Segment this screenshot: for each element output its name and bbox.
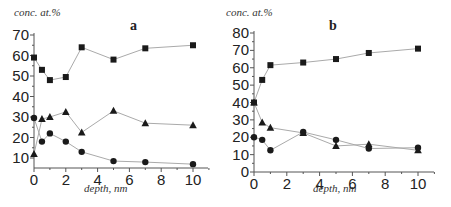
x-tick-label: 2 [283, 175, 291, 192]
square-marker [190, 42, 196, 48]
square-marker [267, 62, 273, 68]
panel-label-a: a [130, 18, 137, 33]
square-marker [111, 57, 117, 63]
x-tick-label: 10 [185, 171, 202, 188]
plot-area-a [30, 42, 197, 167]
circle-marker [63, 138, 69, 144]
circle-marker [110, 158, 116, 164]
y-tick-label: 80 [232, 24, 249, 41]
square-marker [142, 45, 148, 51]
circle-marker [142, 159, 148, 165]
y-tick-label: 10 [232, 146, 249, 163]
y-axis-title-b: conc. at.% [226, 6, 273, 18]
y-tick-label: 70 [12, 26, 29, 43]
y-tick-label: 50 [12, 67, 29, 84]
square-marker [31, 55, 37, 61]
circle-marker [366, 145, 372, 151]
triangle-marker [62, 108, 70, 115]
x-axis-title-a: depth, nm [84, 182, 127, 194]
y-tick-label: 30 [232, 111, 249, 128]
x-tick-label: 4 [93, 171, 101, 188]
circle-marker [79, 149, 85, 155]
circle-marker [39, 138, 45, 144]
circle-marker [333, 137, 339, 143]
x-tick-label: 4 [315, 175, 323, 192]
x-tick-label: 6 [125, 171, 133, 188]
circle-marker [415, 144, 421, 150]
y-tick-label: 10 [12, 149, 29, 166]
figure: conc. at.% a depth, nm 10203040506070024… [0, 0, 451, 207]
y-tick-label: 40 [12, 88, 29, 105]
square-marker [79, 44, 85, 50]
square-marker [333, 56, 339, 62]
y-axis-title-a: conc. at.% [14, 6, 61, 18]
plot-area-b [250, 46, 422, 154]
square-marker [39, 67, 45, 73]
x-tick-label: 6 [348, 175, 356, 192]
square-marker [415, 46, 421, 52]
y-tick-label: 30 [12, 108, 29, 125]
chart-panel-a: conc. at.% a depth, nm 10203040506070024… [12, 6, 209, 194]
y-tick-label: 60 [232, 59, 249, 76]
circle-marker [47, 130, 53, 136]
y-tick-label: 40 [232, 94, 249, 111]
square-marker [63, 74, 69, 80]
y-tick-label: 50 [232, 76, 249, 93]
y-tick-label: 20 [12, 129, 29, 146]
y-tick-label: 60 [12, 47, 29, 64]
square-marker [47, 77, 53, 83]
x-tick-label: 0 [250, 175, 258, 192]
x-tick-label: 10 [410, 175, 427, 192]
triangle-marker [30, 150, 38, 157]
circle-marker [300, 129, 306, 135]
triangle-marker [267, 124, 275, 131]
x-tick-label: 8 [157, 171, 165, 188]
circle-marker [31, 115, 37, 121]
circle-marker [267, 147, 273, 153]
x-tick-label: 2 [62, 171, 70, 188]
series-line-square [34, 45, 193, 80]
triangle-marker [258, 118, 266, 125]
x-tick-label: 8 [381, 175, 389, 192]
circle-marker [190, 161, 196, 167]
chart-panel-b: conc. at.% b depth, nm 01020304050607080… [226, 6, 434, 194]
triangle-marker [110, 107, 118, 114]
panel-label-b: b [329, 18, 337, 33]
series-line-circle [34, 118, 193, 164]
axes-b: 010203040506070800246810 [232, 24, 434, 192]
circle-marker [251, 134, 257, 140]
circle-marker [259, 137, 265, 143]
y-tick-label: 70 [232, 41, 249, 58]
x-tick-label: 0 [30, 171, 38, 188]
y-tick-label: 20 [232, 128, 249, 145]
square-marker [259, 77, 265, 83]
square-marker [300, 60, 306, 66]
series-line-triangle [34, 111, 193, 154]
square-marker [366, 50, 372, 56]
y-tick-label: 0 [241, 163, 249, 180]
